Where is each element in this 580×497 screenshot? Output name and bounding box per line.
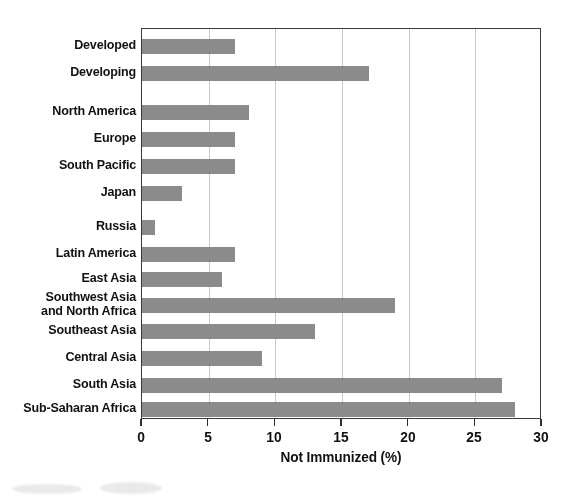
category-label: Southeast Asia — [10, 323, 136, 337]
category-label: South Asia — [10, 377, 136, 391]
bar-row — [142, 247, 542, 262]
x-tick-label: 20 — [389, 428, 426, 445]
bar-russia — [142, 220, 155, 235]
x-tick-30 — [540, 419, 542, 426]
x-tick-label: 0 — [123, 428, 160, 445]
bar-row — [142, 402, 542, 417]
bar-row — [142, 351, 542, 366]
category-label: East Asia — [10, 271, 136, 285]
bar-south-asia — [142, 378, 502, 393]
category-label: North America — [10, 104, 136, 118]
bar-southwest-asia-and-north-africa — [142, 298, 395, 313]
category-label: Central Asia — [10, 350, 136, 364]
bar-row — [142, 298, 542, 313]
bar-japan — [142, 186, 182, 201]
x-tick-20 — [407, 419, 409, 426]
bar-developing — [142, 66, 369, 81]
bar-row — [142, 186, 542, 201]
bar-row — [142, 159, 542, 174]
bar-central-asia — [142, 351, 262, 366]
bar-southeast-asia — [142, 324, 315, 339]
x-axis: 051015202530 — [141, 419, 541, 420]
category-label: Latin America — [10, 246, 136, 260]
category-label: Europe — [10, 131, 136, 145]
bar-row — [142, 378, 542, 393]
bar-east-asia — [142, 272, 222, 287]
bar-row — [142, 272, 542, 287]
x-tick-label: 30 — [523, 428, 560, 445]
bar-row — [142, 324, 542, 339]
category-label: South Pacific — [10, 158, 136, 172]
bar-europe — [142, 132, 235, 147]
category-label: Developing — [10, 65, 136, 79]
category-label: Sub-Saharan Africa — [10, 401, 136, 415]
x-tick-label: 15 — [323, 428, 360, 445]
bar-south-pacific — [142, 159, 235, 174]
category-label: Developed — [10, 38, 136, 52]
bar-row — [142, 66, 542, 81]
category-label: Southwest Asia and North Africa — [10, 290, 136, 318]
x-axis-title: Not Immunized (%) — [153, 449, 529, 465]
x-tick-15 — [340, 419, 342, 426]
bar-row — [142, 220, 542, 235]
x-tick-0 — [140, 419, 142, 426]
bar-north-america — [142, 105, 249, 120]
bar-row — [142, 39, 542, 54]
horizontal-bar-chart: DevelopedDevelopingNorth AmericaEuropeSo… — [0, 0, 580, 497]
x-tick-10 — [274, 419, 276, 426]
x-tick-label: 25 — [456, 428, 493, 445]
x-tick-5 — [207, 419, 209, 426]
category-label: Russia — [10, 219, 136, 233]
x-tick-25 — [474, 419, 476, 426]
bar-row — [142, 132, 542, 147]
bar-sub-saharan-africa — [142, 402, 515, 417]
bar-developed — [142, 39, 235, 54]
x-tick-label: 5 — [189, 428, 226, 445]
bar-row — [142, 105, 542, 120]
category-axis-labels: DevelopedDevelopingNorth AmericaEuropeSo… — [0, 0, 136, 497]
x-tick-label: 10 — [256, 428, 293, 445]
category-label: Japan — [10, 185, 136, 199]
plot-area — [141, 28, 541, 419]
bar-latin-america — [142, 247, 235, 262]
